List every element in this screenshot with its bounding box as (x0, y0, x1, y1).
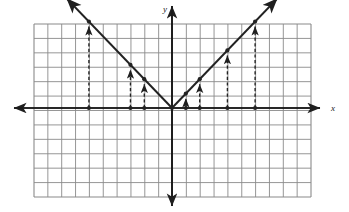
graph-figure: x y (0, 0, 349, 212)
curve-point-dot (87, 20, 91, 24)
curve-point-dot (225, 48, 229, 52)
vertex-dot (170, 106, 174, 110)
curve-right-branch (172, 0, 277, 108)
curve-point-dot (128, 63, 132, 67)
curve-point-dot (184, 92, 188, 96)
curve-point-dot (142, 77, 146, 81)
x-axis-label: x (330, 103, 335, 113)
curve-point-dot (198, 77, 202, 81)
curve-left-branch (67, 0, 172, 108)
axis-point-dot (198, 106, 202, 110)
axis-point-dot (253, 106, 257, 110)
axis-point-dot (87, 106, 91, 110)
axis-point-dot (142, 106, 146, 110)
coordinate-plane-svg: x y (0, 0, 349, 212)
curve-point-dot (253, 20, 257, 24)
y-axis-label: y (162, 4, 167, 14)
axis-point-dot (128, 106, 132, 110)
axis-point-dot (225, 106, 229, 110)
axes (14, 6, 320, 206)
axis-point-dot (184, 106, 188, 110)
